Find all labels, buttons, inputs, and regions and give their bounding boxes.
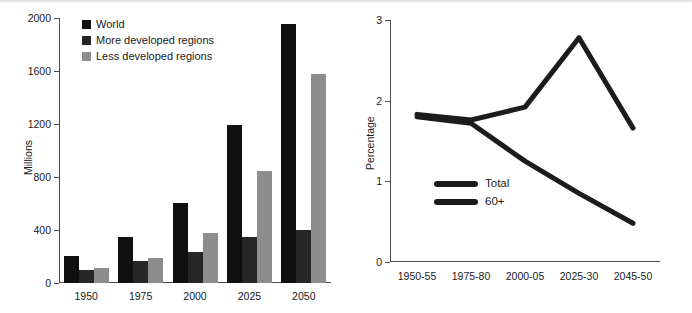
bar-world-1975 [118, 237, 133, 283]
line-chart-x-tick-label: 2045-50 [614, 270, 653, 282]
line-chart-y-tick-label: 0 [376, 256, 382, 268]
bar-chart-y-tick [54, 71, 59, 72]
bar-chart-y-tick-label: 1200 [28, 118, 51, 130]
bar-chart-legend: WorldMore developed regionsLess develope… [82, 18, 214, 63]
line-chart-x-tick-label: 2000-05 [506, 270, 545, 282]
bar-less-developed-regions-1975 [148, 258, 163, 283]
legend-line-swatch-icon [434, 181, 478, 187]
bar-legend-item: More developed regions [82, 34, 214, 47]
line-chart-series-svg [390, 20, 660, 262]
legend-swatch-icon [82, 52, 91, 61]
line-chart-x-tick-label: 2025-30 [560, 270, 599, 282]
line-chart-panel: Percentage 0123 1950-551975-802000-05202… [346, 0, 692, 313]
bar-more-developed-regions-2050 [296, 230, 311, 283]
bar-world-2050 [281, 24, 296, 283]
bar-group [227, 125, 272, 283]
bar-less-developed-regions-2050 [311, 74, 326, 283]
line-chart-legend: Total60+ [434, 176, 509, 209]
bar-chart-y-tick-label: 800 [33, 171, 51, 183]
bar-world-2000 [173, 203, 188, 283]
bar-group [118, 237, 163, 283]
line-legend-item: 60+ [434, 194, 509, 209]
bar-less-developed-regions-2025 [257, 171, 272, 283]
bar-chart-y-tick-label: 2000 [28, 12, 51, 24]
bar-chart-x-tick-label: 2000 [183, 290, 206, 302]
bar-chart-x-tick-label: 2025 [238, 290, 261, 302]
bar-chart-y-tick [54, 177, 59, 178]
bar-less-developed-regions-2000 [203, 233, 218, 283]
line-chart-x-tick-label: 1950-55 [398, 270, 437, 282]
bar-chart-x-tick-label: 2050 [292, 290, 315, 302]
bar-chart-y-tick-label: 1600 [28, 65, 51, 77]
line-series-60- [417, 38, 633, 128]
legend-swatch-icon [82, 20, 91, 29]
bar-group [281, 24, 326, 283]
line-legend-item: Total [434, 176, 509, 191]
bar-chart-y-tick [54, 283, 59, 284]
line-chart-y-tick-label: 3 [376, 14, 382, 26]
bar-chart-x-tick-label: 1975 [129, 290, 152, 302]
bar-chart-y-tick-label: 400 [33, 224, 51, 236]
bar-chart-y-tick [54, 18, 59, 19]
bar-chart-y-axis-label: Millions [22, 140, 34, 175]
bar-world-1950 [64, 256, 79, 283]
bar-more-developed-regions-2000 [188, 252, 203, 283]
bar-group [64, 256, 109, 283]
bar-more-developed-regions-1975 [133, 261, 148, 283]
bar-legend-item: World [82, 18, 214, 31]
bar-more-developed-regions-2025 [242, 237, 257, 283]
bar-chart-y-tick-label: 0 [45, 277, 51, 289]
line-chart-plot-area: 0123 1950-551975-802000-052025-302045-50 [390, 20, 660, 262]
line-legend-label: 60+ [485, 194, 505, 209]
bar-legend-label: Less developed regions [96, 50, 212, 63]
bar-legend-item: Less developed regions [82, 50, 214, 63]
legend-swatch-icon [82, 36, 91, 45]
bar-chart-x-tick-label: 1950 [75, 290, 98, 302]
legend-line-swatch-icon [434, 199, 478, 205]
bar-chart-panel: Millions 0400800120016002000 19501975200… [0, 0, 346, 313]
bar-legend-label: More developed regions [96, 34, 214, 47]
bar-chart-y-axis [59, 18, 60, 283]
line-chart-y-tick-label: 2 [376, 95, 382, 107]
bar-chart-y-tick [54, 124, 59, 125]
line-chart-y-tick [385, 262, 390, 263]
line-chart-x-tick-label: 1975-80 [452, 270, 491, 282]
bar-chart-y-tick [54, 230, 59, 231]
line-legend-label: Total [485, 176, 509, 191]
bar-group [173, 203, 218, 283]
bar-legend-label: World [96, 18, 125, 31]
chart-figure: Millions 0400800120016002000 19501975200… [0, 0, 692, 313]
bar-less-developed-regions-1950 [94, 268, 109, 283]
line-chart-y-axis-label: Percentage [364, 116, 376, 170]
bar-more-developed-regions-1950 [79, 270, 94, 283]
bar-world-2025 [227, 125, 242, 283]
line-chart-y-tick-label: 1 [376, 175, 382, 187]
